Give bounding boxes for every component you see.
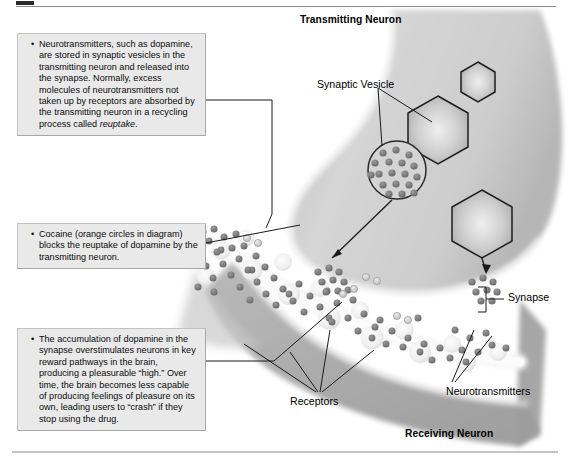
receptor-bump — [443, 335, 461, 353]
callout-reuptake-text-end: . — [135, 119, 138, 129]
label-synaptic-vesicle: Synaptic Vesicle — [317, 78, 394, 90]
callout-accumulation: The accumulation of dopamine in the syna… — [17, 328, 206, 431]
cocaine-circle — [350, 285, 357, 292]
cocaine-circle — [393, 312, 400, 319]
cocaine-circle — [362, 273, 369, 280]
receptor-pocket-dot — [417, 349, 424, 356]
receptor-pocket-dot — [369, 335, 376, 342]
cocaine-circle — [339, 290, 346, 297]
vesicle-release-cluster-right — [468, 274, 500, 304]
callout-cocaine: Cocaine (orange circles in diagram) bloc… — [17, 223, 206, 269]
callout-cocaine-text: Cocaine (orange circles in diagram) bloc… — [32, 229, 198, 263]
callout-accumulation-text: The accumulation of dopamine in the syna… — [32, 334, 198, 425]
round-vesicle-labeled — [367, 141, 426, 199]
cocaine-circle — [254, 239, 261, 246]
label-synapse: Synapse — [508, 291, 549, 303]
top-rule — [16, 1, 556, 7]
leader-reuptake — [206, 100, 272, 228]
label-receiving-neuron: Receiving Neuron — [405, 428, 493, 439]
label-neurotransmitters: Neurotransmitters — [446, 385, 530, 397]
label-transmitting-neuron: Transmitting Neuron — [300, 14, 402, 25]
figure-container: Neurotransmitters, such as dopamine, are… — [0, 0, 568, 463]
cocaine-circle — [404, 316, 411, 323]
callout-reuptake-italic: reuptake — [100, 119, 135, 129]
callout-reuptake-text: Neurotransmitters, such as dopamine, are… — [39, 39, 195, 129]
label-receptors: Receptors — [290, 395, 338, 407]
cocaine-circle — [373, 277, 380, 284]
receptor-pocket-dot — [286, 291, 293, 298]
receptor-bump — [274, 253, 292, 271]
receptor-pocket-dot — [463, 359, 470, 366]
callout-reuptake: Neurotransmitters, such as dopamine, are… — [17, 33, 206, 136]
